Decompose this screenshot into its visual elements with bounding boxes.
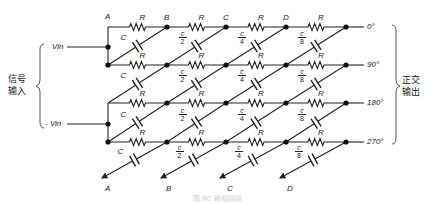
- node-label-top-a: A: [105, 13, 110, 21]
- capacitor-label: C: [117, 148, 125, 155]
- resistor: [286, 24, 346, 31]
- junction-dot: [283, 62, 288, 67]
- junction-dot: [343, 100, 348, 105]
- input-brace: [36, 44, 44, 128]
- resistor: [108, 62, 167, 69]
- resistor: [286, 100, 346, 107]
- resistor-label: R: [140, 129, 146, 137]
- resistor: [286, 62, 346, 69]
- output-brace: [392, 25, 400, 144]
- junction-dot: [223, 139, 228, 144]
- node-label-top-b: B: [164, 14, 169, 22]
- resistor-label: R: [318, 129, 324, 137]
- resistor-label: R: [199, 129, 205, 137]
- node-label-top-c: C: [223, 14, 229, 22]
- figure-caption: 图 RC 移相网络: [0, 193, 435, 203]
- resistor: [167, 24, 226, 31]
- capacitor-label: c4: [238, 68, 246, 83]
- junction-dot: [223, 24, 228, 29]
- output-phase-0: 0°: [367, 23, 375, 31]
- resistor-label: R: [258, 14, 264, 22]
- junction-dot: [164, 24, 169, 29]
- resistor-label: R: [258, 90, 264, 98]
- output-label-line1: 正交: [402, 75, 420, 86]
- resistor-label: R: [199, 14, 205, 22]
- node-label-bottom-d: D: [287, 185, 293, 193]
- junction-dot: [283, 100, 288, 105]
- junction-dot: [105, 121, 110, 126]
- resistor-label: R: [199, 52, 205, 60]
- wires: [67, 27, 108, 142]
- capacitor-label: c2: [179, 107, 187, 122]
- capacitor-label: c8: [298, 68, 306, 83]
- node-label-bottom-b: B: [166, 185, 171, 193]
- junction-dot: [343, 139, 348, 144]
- capacitor-label: C: [120, 34, 128, 41]
- junction-dot: [223, 100, 228, 105]
- junction-dot: [105, 44, 110, 49]
- capacitor-label: c2: [179, 68, 187, 83]
- resistor: [226, 100, 286, 107]
- junction-dot: [283, 24, 288, 29]
- capacitor-label: c4: [238, 107, 246, 122]
- resistor-label: R: [318, 14, 324, 22]
- junction-dot: [164, 100, 169, 105]
- capacitor-label: c2: [176, 144, 184, 159]
- resistor-label: R: [140, 52, 146, 60]
- vin-label: Vin: [52, 43, 63, 51]
- capacitor-label: c2: [179, 30, 187, 45]
- resistor-label: R: [318, 52, 324, 60]
- output-label-line2: 输出: [402, 87, 420, 98]
- junction-dot: [164, 62, 169, 67]
- resistor: [108, 139, 167, 146]
- resistor: [167, 100, 226, 107]
- node-label-bottom-a: A: [105, 185, 110, 193]
- capacitor-label: c8: [298, 30, 306, 45]
- output-phase-90: 90°: [367, 61, 379, 69]
- input-label-line2: 输入: [8, 86, 26, 97]
- junction-dot: [343, 62, 348, 67]
- resistor-label: R: [140, 14, 146, 22]
- junction-dot: [223, 62, 228, 67]
- junction-dot: [164, 139, 169, 144]
- resistor-label: R: [199, 90, 205, 98]
- junction-dot: [105, 139, 110, 144]
- junction-dot: [343, 24, 348, 29]
- output-phase-180: 180°: [367, 99, 384, 107]
- input-label-line1: 信号: [8, 74, 26, 85]
- resistor: [108, 24, 167, 31]
- capacitor-label: C: [120, 72, 128, 79]
- resistor: [226, 62, 286, 69]
- resistor: [226, 24, 286, 31]
- capacitor-label: c4: [235, 144, 243, 159]
- capacitor-label: c8: [295, 144, 303, 159]
- output-phase-270: 270°: [367, 138, 384, 146]
- node-label-bottom-c: C: [227, 185, 233, 193]
- capacitor-label: C: [120, 111, 128, 118]
- resistor-label: R: [258, 129, 264, 137]
- neg-vin-label: - Vin: [45, 120, 61, 128]
- resistor: [108, 100, 167, 107]
- capacitor-label: c4: [238, 30, 246, 45]
- junction-dot: [283, 139, 288, 144]
- resistor: [167, 62, 226, 69]
- capacitor-label: c8: [298, 107, 306, 122]
- resistor-label: R: [318, 90, 324, 98]
- resistor-label: R: [140, 90, 146, 98]
- node-label-top-d: D: [283, 14, 289, 22]
- junction-dot: [105, 62, 110, 67]
- resistor-label: R: [258, 52, 264, 60]
